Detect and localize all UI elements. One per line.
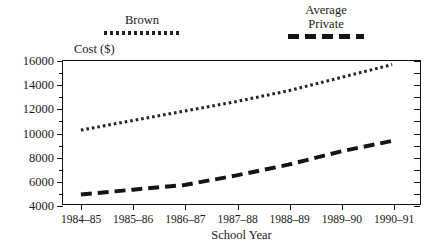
y-axis-minor-tick: [59, 97, 63, 98]
dotted-line-swatch-icon: [104, 31, 180, 35]
x-axis-tick-label: 1987–88: [217, 213, 257, 225]
x-axis-tick: [133, 204, 134, 210]
y-axis-right-tick: [414, 170, 420, 171]
y-axis-tick: [57, 85, 63, 86]
y-axis-tick-label: 8000: [29, 151, 54, 164]
x-axis-title: School Year: [62, 228, 421, 243]
x-axis-tick: [81, 204, 82, 210]
x-axis-tick: [342, 204, 343, 210]
y-axis-tick: [57, 109, 63, 110]
y-axis-right-tick: [414, 73, 420, 74]
y-axis-tick-label: 12000: [23, 103, 54, 116]
y-axis-right-tick: [414, 134, 420, 135]
y-axis-right-tick: [414, 182, 420, 183]
x-axis-tick-label: 1986–87: [165, 213, 205, 225]
x-axis-tick: [185, 204, 186, 210]
x-axis-tick-label: 1990–91: [374, 213, 414, 225]
plot-inner: [63, 61, 420, 204]
y-axis-right-tick: [414, 206, 420, 207]
y-axis-minor-tick: [59, 121, 63, 122]
y-axis-right-tick: [414, 121, 420, 122]
plot-area: 400060008000100001200014000160001984–851…: [62, 60, 421, 205]
y-axis-right-tick: [414, 146, 420, 147]
legend-label-private: Private: [288, 18, 364, 32]
series-layer: [63, 61, 420, 204]
y-axis-minor-tick: [59, 194, 63, 195]
y-axis-tick-label: 4000: [29, 200, 54, 213]
y-axis-right-tick: [414, 194, 420, 195]
y-axis-right-tick: [414, 109, 420, 110]
legend-item-average-private: Average Private: [288, 4, 364, 39]
y-axis-right-tick: [414, 85, 420, 86]
series-line-average-private: [81, 141, 392, 195]
y-axis-title: Cost ($): [74, 42, 115, 57]
y-axis-tick: [57, 182, 63, 183]
y-axis-tick-label: 10000: [23, 127, 54, 140]
y-axis-minor-tick: [59, 170, 63, 171]
x-axis-tick: [238, 204, 239, 210]
y-axis-tick: [57, 134, 63, 135]
y-axis-tick: [57, 158, 63, 159]
y-axis-right-tick: [414, 97, 420, 98]
x-axis-tick: [394, 204, 395, 210]
y-axis-tick: [57, 206, 63, 207]
legend-label-brown: Brown: [104, 14, 180, 28]
y-axis-minor-tick: [59, 146, 63, 147]
x-axis-tick: [290, 204, 291, 210]
y-axis-tick: [57, 61, 63, 62]
y-axis-right-tick: [414, 158, 420, 159]
x-axis-tick-label: 1988–89: [270, 213, 310, 225]
x-axis-tick-label: 1985–86: [113, 213, 153, 225]
y-axis-tick-label: 16000: [23, 55, 54, 68]
x-axis-tick-label: 1984–85: [61, 213, 101, 225]
dashed-line-swatch-icon: [288, 34, 364, 39]
chart-figure: Brown Average Private Cost ($) 400060008…: [0, 0, 437, 250]
y-axis-right-tick: [414, 61, 420, 62]
y-axis-tick-label: 6000: [29, 176, 54, 189]
y-axis-minor-tick: [59, 73, 63, 74]
legend-label-average: Average: [288, 4, 364, 18]
y-axis-tick-label: 14000: [23, 79, 54, 92]
legend-item-brown: Brown: [104, 14, 180, 35]
x-axis-tick-label: 1989–90: [322, 213, 362, 225]
series-line-brown: [81, 65, 392, 131]
